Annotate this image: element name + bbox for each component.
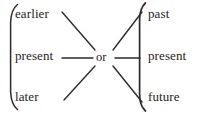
label-present-left: present — [15, 49, 53, 63]
label-earlier: earlier — [15, 7, 49, 21]
temporal-relation-diagram: earlier present later or past present fu… — [0, 0, 206, 114]
edge-later-to-or — [64, 66, 95, 100]
label-or-connector: or — [96, 50, 107, 64]
edge-or-to-past — [113, 12, 142, 50]
edge-earlier-to-or — [62, 12, 95, 50]
label-later: later — [15, 90, 39, 104]
label-past: past — [148, 7, 169, 21]
edge-or-to-future — [113, 66, 142, 102]
label-present-right: present — [148, 49, 186, 63]
right-curly-brace-icon — [140, 3, 146, 111]
label-future: future — [148, 90, 180, 104]
